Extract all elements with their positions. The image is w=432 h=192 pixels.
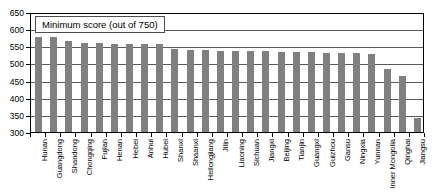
chart-title: Minimum score (out of 750) [42,19,158,30]
bar [338,53,345,132]
x-tick-mark [303,133,304,137]
x-tick-label: Beijing [283,139,291,162]
bar [126,44,133,132]
x-tick-label: Hunan [41,139,49,161]
x-tick-label: Jiangsu [419,139,427,165]
bar-chart: 300350400450500550600650 Minimum score (… [0,0,432,192]
bar [96,43,103,132]
x-tick-mark [318,133,319,137]
x-tick-label: Hubei [162,139,170,159]
x-tick-label: Fujian [101,139,109,159]
x-tick-mark [272,133,273,137]
x-tick-label: Sichuan [253,139,261,166]
bar [187,50,194,132]
x-tick-label: Ningxia [359,139,367,164]
x-tick-label: Inner Mongolia [389,139,397,189]
x-tick-mark [363,133,364,137]
bar [50,37,57,132]
plot-area: Minimum score (out of 750) [30,13,424,133]
y-tick-label: 400 [10,94,24,103]
bar [232,51,239,132]
bar [384,69,391,132]
x-tick-label: Guizhou [329,139,337,167]
y-tick-label: 600 [10,26,24,35]
x-tick-mark [197,133,198,137]
x-tick-label: Shaanxi [192,139,200,166]
bar [353,53,360,132]
bar [156,44,163,132]
y-tick-label: 300 [10,129,24,138]
x-tick-label: Yunnan [374,139,382,164]
x-tick-mark [424,133,425,137]
bar [202,50,209,132]
x-tick-mark [151,133,152,137]
x-tick-mark [227,133,228,137]
bar [323,53,330,132]
x-tick-label: Anhui [147,139,155,158]
x-tick-mark [166,133,167,137]
x-tick-mark [182,133,183,137]
x-tick-label: Shandong [71,139,79,173]
x-tick-mark [212,133,213,137]
bar [81,43,88,132]
x-tick-mark [333,133,334,137]
x-tick-mark [91,133,92,137]
x-tick-mark [379,133,380,137]
x-tick-label: Jiangxi [268,139,276,162]
x-tick-label: Henan [116,139,124,161]
x-tick-mark [30,133,31,137]
y-axis: 300350400450500550600650 [0,0,30,192]
bar [308,52,315,132]
x-tick-label: Liaoning [238,139,246,167]
x-tick-label: Jilin [222,139,230,152]
x-tick-mark [121,133,122,137]
y-tick-label: 350 [10,112,24,121]
x-tick-label: Guangdong [56,139,64,178]
x-tick-mark [242,133,243,137]
x-tick-label: Heilongjiang [207,139,215,180]
x-tick-label: Guangxi [313,139,321,167]
x-tick-mark [106,133,107,137]
x-tick-label: Gansu [344,139,352,161]
bar [278,52,285,132]
bar [262,51,269,132]
y-tick-label: 450 [10,77,24,86]
x-tick-mark [257,133,258,137]
bar [293,52,300,132]
x-tick-mark [394,133,395,137]
y-tick-label: 650 [10,9,24,18]
x-tick-label: Hebei [132,139,140,159]
x-tick-label: Chongqing [86,139,94,175]
y-tick-label: 500 [10,60,24,69]
x-axis: HunanGuangdongShandongChongqingFujianHen… [30,133,424,192]
bar [65,41,72,132]
bar [111,44,118,132]
x-tick-mark [409,133,410,137]
bar [247,51,254,132]
x-tick-mark [136,133,137,137]
x-tick-mark [60,133,61,137]
bar [141,44,148,132]
chart-title-box: Minimum score (out of 750) [35,16,165,33]
bar [217,51,224,132]
x-tick-mark [45,133,46,137]
y-tick-label: 550 [10,43,24,52]
x-tick-label: Shanxi [177,139,185,162]
bar [399,76,406,132]
bar [35,37,42,132]
bar [368,54,375,132]
bar [171,49,178,132]
x-tick-label: Qinghai [404,139,412,165]
x-tick-mark [348,133,349,137]
x-tick-mark [288,133,289,137]
bar [414,118,421,132]
x-tick-label: Tianjin [298,139,306,161]
x-tick-mark [75,133,76,137]
